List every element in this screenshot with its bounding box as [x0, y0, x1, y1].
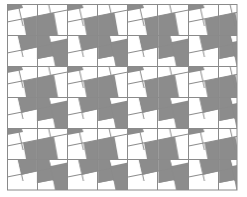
- tiling-pattern: [0, 0, 247, 197]
